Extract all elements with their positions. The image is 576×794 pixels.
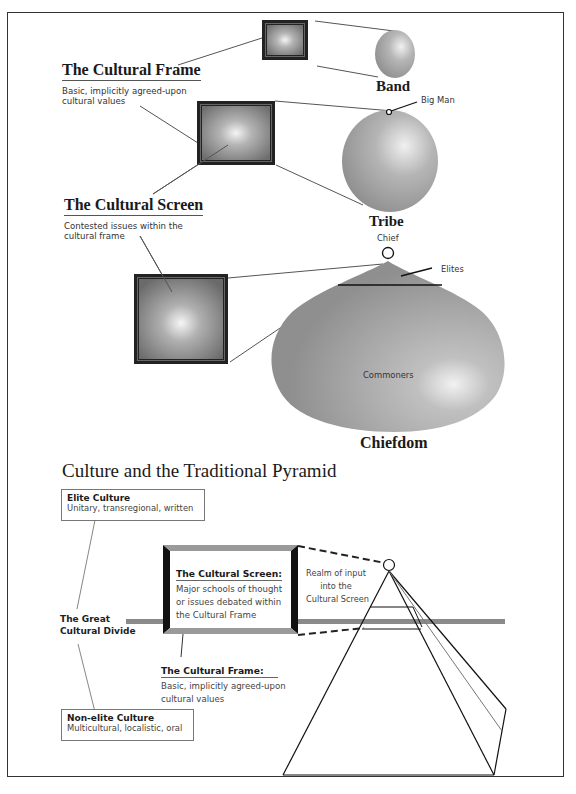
pyramid-cultural-frame-title: The Cultural Frame:	[161, 665, 278, 678]
band-label: Band	[376, 78, 410, 95]
chief-label: Chief	[377, 233, 399, 243]
big-man-dot	[387, 110, 392, 115]
non-elite-culture-box: Non-elite Culture Multicultural, localis…	[61, 709, 194, 741]
great-divide-line-1: The Great	[60, 613, 136, 625]
cultural-screen-desc-2: cultural frame	[64, 231, 203, 241]
realm-line-2: into the	[306, 580, 366, 593]
cultural-frame-title: The Cultural Frame	[62, 61, 201, 81]
cultural-screen-title: The Cultural Screen	[64, 196, 203, 216]
tribe-sphere	[342, 110, 438, 212]
great-divide-line-2: Cultural Divide	[60, 625, 136, 637]
great-divide-label: The Great Cultural Divide	[60, 613, 136, 637]
pyramid-cultural-screen-label: The Cultural Screen: Major schools of th…	[176, 563, 282, 622]
pyramid-cultural-screen-title: The Cultural Screen:	[176, 568, 282, 581]
pyramid-section-title: Culture and the Traditional Pyramid	[62, 460, 336, 482]
cultural-frame-desc-1: Basic, implicitly agreed-upon	[62, 86, 201, 96]
non-elite-culture-desc: Multicultural, localistic, oral	[67, 723, 188, 733]
diagram-graphics	[0, 0, 576, 794]
non-elite-culture-title: Non-elite Culture	[67, 713, 188, 723]
realm-line-1: Realm of input	[306, 567, 366, 580]
band-group	[178, 20, 415, 78]
chiefdom-label: Chiefdom	[360, 434, 428, 452]
pyramid-cultural-frame-line-2: cultural values	[161, 693, 286, 706]
elite-culture-box: Elite Culture Unitary, transregional, wr…	[61, 489, 205, 521]
pyramid-cultural-frame-line-1: Basic, implicitly agreed-upon	[161, 680, 286, 693]
pyramid-cultural-screen-line-1: Major schools of thought	[176, 583, 282, 596]
cultural-frame-desc-2: cultural values	[62, 96, 201, 106]
apex-circle	[384, 560, 395, 571]
elite-culture-title: Elite Culture	[67, 493, 199, 503]
chiefdom-shape	[271, 261, 504, 432]
cultural-frame-label: The Cultural Frame Basic, implicitly agr…	[62, 61, 201, 106]
cultural-screen-desc-1: Contested issues within the	[64, 221, 203, 231]
elite-culture-desc: Unitary, transregional, written	[67, 503, 199, 513]
cultural-screen-label: The Cultural Screen Contested issues wit…	[64, 196, 203, 241]
realm-line-3: Cultural Screen	[306, 593, 366, 606]
band-sphere	[375, 30, 415, 78]
tribe-label: Tribe	[369, 213, 404, 230]
pyramid-cultural-screen-line-3: the Cultural Frame	[176, 609, 282, 622]
big-man-label: Big Man	[421, 95, 455, 105]
pyramid-cultural-frame-label: The Cultural Frame: Basic, implicitly ag…	[161, 660, 286, 706]
commoners-label: Commoners	[363, 370, 414, 380]
chief-circle	[383, 248, 394, 259]
pyramid-cultural-screen-line-2: or issues debated within	[176, 596, 282, 609]
realm-of-input-label: Realm of input into the Cultural Screen	[306, 567, 366, 606]
elites-label: Elites	[441, 264, 464, 274]
